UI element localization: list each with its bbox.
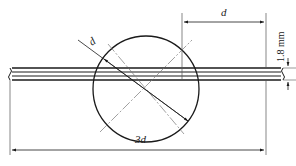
test-circle <box>93 36 199 142</box>
strip-specimen <box>9 68 285 80</box>
right-break-line <box>282 68 285 80</box>
thickness-label: 1.8 mm <box>275 31 286 62</box>
thickness-dimension: 1.8 mm <box>275 31 296 90</box>
length-3d-dimension: 3d <box>10 80 266 155</box>
specimen-drawing: d d 1.8 mm 3d <box>0 0 296 166</box>
top-d-label: d <box>221 6 227 18</box>
length-3d-label: 3d <box>134 133 147 145</box>
diameter-label: d <box>86 34 98 47</box>
left-break-line <box>9 68 12 80</box>
center-lines <box>100 40 192 134</box>
